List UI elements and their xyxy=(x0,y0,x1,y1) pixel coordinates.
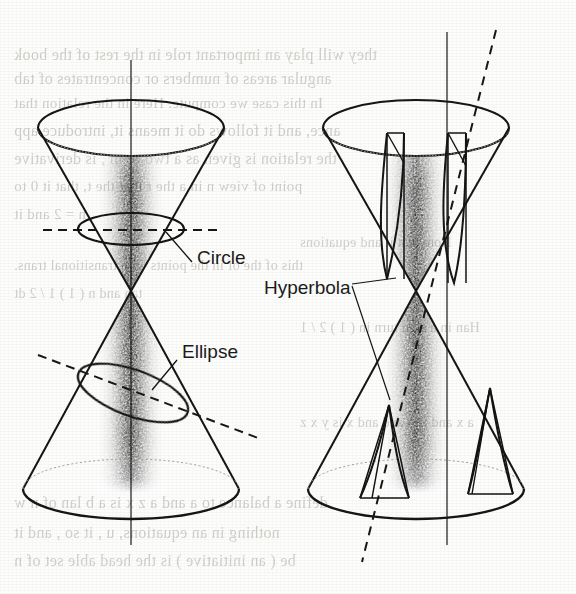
figure-page: they will play an important role in the … xyxy=(0,0,576,594)
hyperbola-leader-line-lower xyxy=(352,286,390,400)
figure-label-hyperbola: Hyperbola xyxy=(264,277,351,299)
left-double-cone-diagram xyxy=(23,60,258,545)
figure-label-ellipse: Ellipse xyxy=(182,341,238,363)
hyperbola-leader-line-upper xyxy=(352,278,396,284)
right-upper-cone-rim-back-highlight xyxy=(323,128,509,156)
right-cone-axial-shading xyxy=(381,128,451,493)
hyperbola-lower-right-plane-diagonal xyxy=(472,388,490,494)
figure-label-circle: Circle xyxy=(197,247,246,269)
